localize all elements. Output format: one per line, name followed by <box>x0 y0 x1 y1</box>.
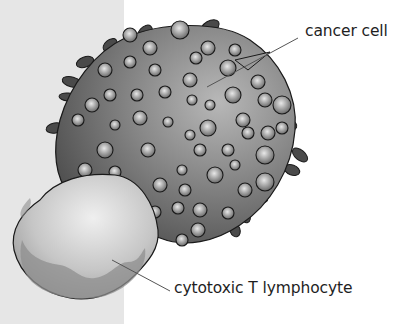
label-cancer-cell: cancer cell <box>305 22 388 40</box>
cell-illustration <box>0 0 417 324</box>
label-cytotoxic-t-lymphocyte: cytotoxic T lymphocyte <box>174 279 353 297</box>
